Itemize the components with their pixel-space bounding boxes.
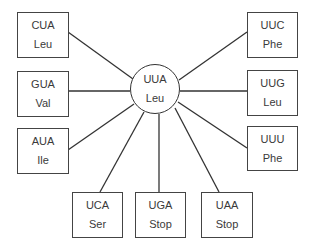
codon-label: UCA: [86, 196, 109, 215]
center-node-uua: UUA Leu: [130, 64, 180, 114]
edge-aua: [68, 104, 134, 150]
amino-acid-label: Stop: [216, 215, 239, 234]
codon-label: AUA: [32, 132, 55, 151]
center-amino-acid: Leu: [146, 89, 164, 108]
node-uaa: UAA Stop: [201, 192, 253, 238]
codon-label: UUG: [260, 74, 284, 93]
node-cua: CUA Leu: [17, 12, 69, 58]
edge-uaa: [175, 108, 219, 192]
codon-label: UAA: [216, 196, 239, 215]
edge-uca: [100, 112, 144, 192]
node-uuc: UUC Phe: [247, 12, 298, 58]
amino-acid-label: Val: [35, 94, 50, 113]
codon-label: UUU: [261, 130, 285, 149]
edge-cua: [68, 32, 133, 79]
node-aua: AUA Ile: [17, 128, 69, 174]
amino-acid-label: Stop: [149, 215, 172, 234]
amino-acid-label: Phe: [263, 35, 283, 54]
node-gua: GUA Val: [17, 71, 69, 117]
center-codon: UUA: [143, 70, 166, 89]
codon-label: UUC: [261, 16, 285, 35]
codon-label: UGA: [149, 196, 173, 215]
amino-acid-label: Leu: [34, 35, 52, 54]
amino-acid-label: Phe: [263, 149, 283, 168]
amino-acid-label: Ile: [37, 151, 49, 170]
edge-uuu: [178, 102, 247, 148]
node-uuu: UUU Phe: [247, 126, 298, 171]
node-uug: UUG Leu: [247, 70, 298, 116]
node-uca: UCA Ser: [72, 192, 123, 238]
edge-uuc: [179, 32, 247, 80]
codon-label: CUA: [31, 16, 54, 35]
amino-acid-label: Leu: [263, 93, 281, 112]
node-uga: UGA Stop: [135, 192, 186, 238]
amino-acid-label: Ser: [89, 215, 106, 234]
codon-label: GUA: [31, 75, 55, 94]
